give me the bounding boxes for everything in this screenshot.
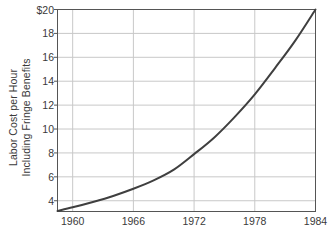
x-axis-tick-label: 1966	[122, 215, 145, 227]
plot-frame	[58, 10, 316, 212]
x-axis-tick-label: 1972	[182, 215, 205, 227]
plot-area	[0, 0, 329, 235]
x-axis-tick-label: 1978	[243, 215, 266, 227]
x-axis-tick-label: 1984	[304, 215, 327, 227]
x-axis-tick-label: 1960	[61, 215, 84, 227]
gridlines	[54, 10, 316, 212]
x-axis-tick-labels: 19601966197219781984	[0, 215, 329, 233]
data-line-labor-cost	[58, 10, 316, 211]
chart-container: Labor Cost per Hour Including Fringe Ben…	[0, 0, 329, 235]
